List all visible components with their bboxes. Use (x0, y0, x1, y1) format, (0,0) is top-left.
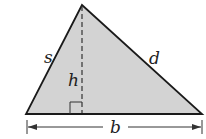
triangle-diagram: s d h b (0, 0, 206, 139)
label-b: b (110, 117, 121, 137)
arrowhead-right (192, 124, 201, 130)
arrowhead-left (28, 124, 37, 130)
label-h: h (68, 70, 79, 90)
label-d: d (149, 48, 160, 68)
label-s: s (44, 47, 53, 67)
